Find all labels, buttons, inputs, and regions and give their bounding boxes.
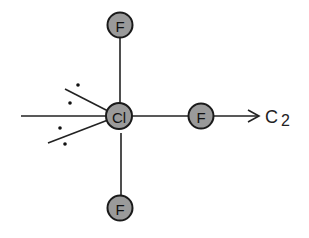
- atom-f-bottom: F: [108, 196, 133, 221]
- c2-axis-label: C2: [265, 107, 290, 129]
- svg-text:F: F: [115, 201, 124, 218]
- atom-f-right: F: [189, 104, 214, 129]
- lone-pair-line-lower: [48, 120, 108, 143]
- svg-text:F: F: [115, 18, 124, 35]
- atom-f-top: F: [108, 13, 133, 38]
- lone-pair-dot: [76, 83, 80, 87]
- lone-pair-dot: [68, 101, 72, 105]
- lone-pair-line-upper: [65, 89, 108, 111]
- atom-cl-center: Cl: [106, 103, 132, 129]
- clf3-diagram: C2 F Cl F F: [0, 0, 309, 238]
- lone-pair-dot: [58, 126, 62, 130]
- svg-text:Cl: Cl: [112, 109, 126, 126]
- lone-pair-dot: [63, 142, 67, 146]
- svg-text:F: F: [196, 109, 205, 126]
